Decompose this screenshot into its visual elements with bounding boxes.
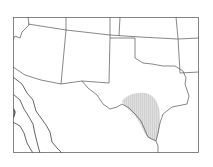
map-svg xyxy=(0,0,213,167)
state-border xyxy=(119,17,120,36)
state-border xyxy=(110,38,189,104)
coastline xyxy=(13,122,33,153)
coastline xyxy=(156,104,187,141)
coastline xyxy=(13,94,40,153)
coastline xyxy=(13,77,62,153)
state-border xyxy=(61,17,66,84)
state-border xyxy=(176,17,199,73)
state-border xyxy=(82,17,110,83)
range-map xyxy=(0,0,213,167)
species-range xyxy=(122,93,160,141)
state-border xyxy=(28,24,199,39)
map-frame xyxy=(14,18,199,153)
state-border xyxy=(13,17,29,40)
